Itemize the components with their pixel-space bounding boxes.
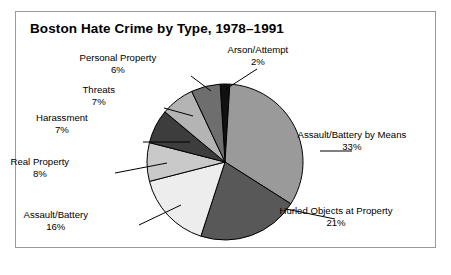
pie-label-assault-battery-name: Assault/Battery [24, 209, 89, 221]
pie-label-hurled-objects-at-property-name: Hurled Objects at Property [280, 205, 393, 217]
pie-label-hurled-objects-at-property-value: 21% [280, 217, 393, 229]
pie-label-real-property-value: 8% [11, 168, 70, 180]
pie-label-assault-battery-by-means-value: 33% [298, 141, 407, 153]
pie-label-hurled-objects-at-property: Hurled Objects at Property 21% [280, 205, 393, 228]
pie-label-threats-name: Threats [83, 84, 116, 96]
pie-label-threats-value: 7% [83, 96, 116, 108]
pie-label-arson-attempt: Arson/Attempt 2% [228, 44, 289, 67]
pie-label-threats: Threats 7% [83, 84, 116, 107]
pie-label-personal-property: Personal Property 6% [80, 52, 157, 75]
pie-label-assault-battery-by-means: Assault/Battery by Means 33% [298, 129, 407, 152]
pie-label-assault-battery: Assault/Battery 16% [24, 209, 89, 232]
pie-label-harassment-name: Harassment [36, 112, 88, 124]
pie-label-personal-property-value: 6% [80, 64, 157, 76]
pie-label-arson-attempt-name: Arson/Attempt [228, 44, 289, 56]
pie-label-assault-battery-by-means-name: Assault/Battery by Means [298, 129, 407, 141]
pie-label-real-property-name: Real Property [11, 156, 70, 168]
pie-label-harassment: Harassment 7% [36, 112, 88, 135]
pie-label-assault-battery-value: 16% [24, 221, 89, 233]
pie-label-personal-property-name: Personal Property [80, 52, 157, 64]
pie-label-harassment-value: 7% [36, 124, 88, 136]
pie-label-arson-attempt-value: 2% [228, 56, 289, 68]
pie-label-real-property: Real Property 8% [11, 156, 70, 179]
